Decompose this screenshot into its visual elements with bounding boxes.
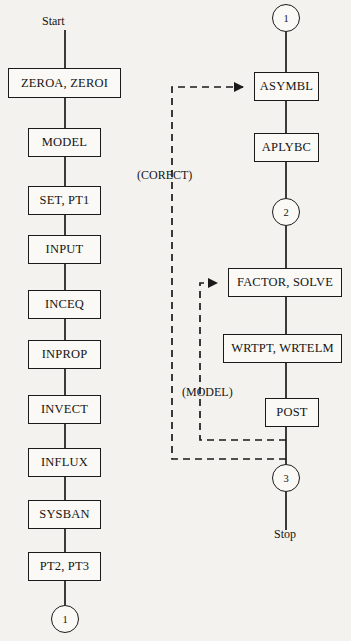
stop-label: Stop — [274, 527, 296, 542]
node-zeroa-zeroi[interactable]: ZEROA, ZEROI — [8, 68, 121, 98]
node-pt2-pt3[interactable]: PT2, PT3 — [28, 552, 101, 581]
node-post[interactable]: POST — [265, 398, 319, 427]
connector-1-top[interactable]: 1 — [272, 4, 300, 32]
connector-2[interactable]: 2 — [272, 198, 300, 226]
start-label: Start — [42, 14, 65, 29]
node-invect[interactable]: INVECT — [28, 395, 101, 424]
connector-3[interactable]: 3 — [272, 464, 300, 492]
corect-loop-label: (CORECT) — [137, 168, 192, 183]
node-asymbl[interactable]: ASYMBL — [254, 72, 319, 101]
node-inprop[interactable]: INPROP — [28, 340, 101, 369]
node-aplybc[interactable]: APLYBC — [254, 133, 319, 162]
node-wrtpt-wrtelm[interactable]: WRTPT, WRTELM — [223, 334, 342, 363]
node-influx[interactable]: INFLUX — [28, 448, 101, 477]
node-model[interactable]: MODEL — [28, 128, 101, 157]
connector-1-bottom[interactable]: 1 — [51, 605, 79, 633]
flowchart-canvas: Start ZEROA, ZEROI MODEL SET, PT1 INPUT … — [0, 0, 351, 641]
node-input[interactable]: INPUT — [28, 235, 101, 264]
model-loop-label: (MODEL) — [182, 385, 233, 400]
node-set-pt1[interactable]: SET, PT1 — [28, 186, 101, 215]
node-sysban[interactable]: SYSBAN — [28, 500, 101, 529]
node-inceq[interactable]: INCEQ — [28, 290, 101, 319]
node-factor-solve[interactable]: FACTOR, SOLVE — [228, 268, 342, 297]
